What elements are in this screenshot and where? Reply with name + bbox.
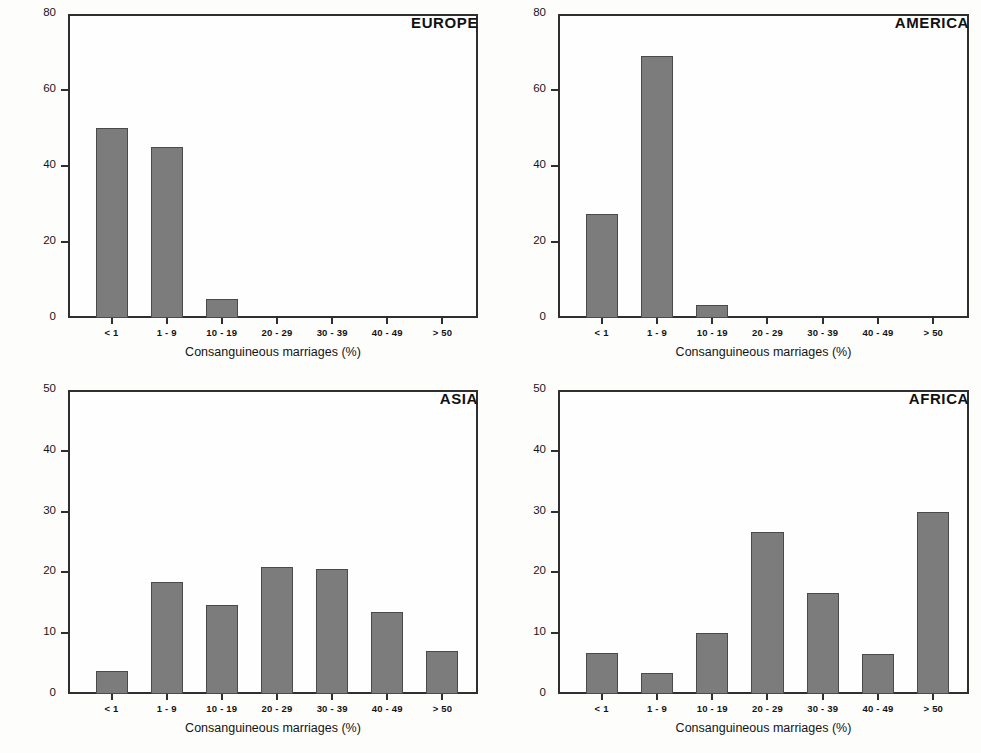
x-tick-label: 10 - 19 bbox=[194, 703, 249, 714]
y-tick-label: 20 bbox=[43, 234, 56, 246]
bar-slot bbox=[685, 390, 740, 694]
x-tick-label: 20 - 29 bbox=[740, 703, 795, 714]
bar-slot bbox=[795, 390, 850, 694]
bar-slot bbox=[139, 390, 194, 694]
x-tick-label: 30 - 39 bbox=[795, 703, 850, 714]
bar-slot bbox=[850, 390, 905, 694]
y-tick-mark bbox=[551, 450, 558, 452]
x-tick-mark bbox=[441, 318, 443, 324]
x-tick: 40 - 49 bbox=[850, 318, 905, 344]
x-tick-label: 10 - 19 bbox=[194, 327, 249, 338]
y-tick-mark bbox=[551, 571, 558, 573]
bar bbox=[206, 299, 238, 318]
bar-slot bbox=[415, 390, 470, 694]
x-tick-label: 10 - 19 bbox=[685, 327, 740, 338]
y-tick-mark bbox=[61, 571, 68, 573]
bar-slot bbox=[360, 14, 415, 318]
x-tick-label: 30 - 39 bbox=[305, 327, 360, 338]
x-tick-mark bbox=[822, 694, 824, 700]
x-tick-mark bbox=[932, 694, 934, 700]
x-tick-label: > 50 bbox=[415, 703, 470, 714]
bars-asia bbox=[68, 390, 478, 694]
x-tick: 1 - 9 bbox=[629, 694, 684, 720]
figure-consanguinity-histograms: Number of populations (%) EUROPE 0204060… bbox=[0, 0, 981, 753]
x-axis-title: Consanguineous marriages (%) bbox=[68, 721, 478, 735]
y-tick-mark bbox=[551, 241, 558, 243]
y-tick-label: 50 bbox=[533, 382, 546, 394]
x-tick-label: < 1 bbox=[84, 327, 139, 338]
x-tick: 30 - 39 bbox=[305, 694, 360, 720]
y-tick-label: 0 bbox=[540, 310, 546, 322]
x-tick-mark bbox=[441, 694, 443, 700]
y-tick-label: 60 bbox=[533, 82, 546, 94]
x-tick: 1 - 9 bbox=[139, 318, 194, 344]
panel-africa: AFRICA 01020304050 < 11 - 910 - 1920 - 2… bbox=[490, 376, 981, 753]
x-tick: 30 - 39 bbox=[795, 694, 850, 720]
y-tick-label: 40 bbox=[533, 443, 546, 455]
bar-slot bbox=[360, 390, 415, 694]
y-tick-label: 0 bbox=[50, 310, 56, 322]
bar-slot bbox=[629, 14, 684, 318]
x-tick-mark bbox=[221, 318, 223, 324]
bar bbox=[206, 605, 238, 694]
y-tick-mark bbox=[551, 89, 558, 91]
bar-slot bbox=[305, 14, 360, 318]
y-tick-label: 20 bbox=[43, 564, 56, 576]
y-tick-mark bbox=[61, 511, 68, 513]
x-tick-label: < 1 bbox=[574, 703, 629, 714]
bar-slot bbox=[629, 390, 684, 694]
bar-slot bbox=[740, 14, 795, 318]
x-tick-label: 20 - 29 bbox=[740, 327, 795, 338]
x-tick-label: < 1 bbox=[84, 703, 139, 714]
x-tick: 40 - 49 bbox=[360, 318, 415, 344]
x-tick: > 50 bbox=[415, 318, 470, 344]
y-tick-label: 60 bbox=[43, 82, 56, 94]
bar-slot bbox=[139, 14, 194, 318]
bar bbox=[751, 532, 783, 694]
bars-america bbox=[558, 14, 969, 318]
bar-slot bbox=[574, 14, 629, 318]
y-axis-title-slot-europe: Number of populations (%) bbox=[0, 0, 30, 320]
x-tick-mark bbox=[331, 318, 333, 324]
y-tick-label: 40 bbox=[43, 443, 56, 455]
x-tick-label: > 50 bbox=[906, 703, 961, 714]
x-tick-mark bbox=[386, 694, 388, 700]
bar bbox=[862, 654, 894, 694]
y-tick-mark bbox=[61, 632, 68, 634]
x-tick-label: 40 - 49 bbox=[360, 327, 415, 338]
bar-slot bbox=[795, 14, 850, 318]
x-tick-label: 20 - 29 bbox=[249, 703, 304, 714]
x-tick-label: 1 - 9 bbox=[139, 703, 194, 714]
y-tick-label: 30 bbox=[533, 504, 546, 516]
x-tick-mark bbox=[111, 694, 113, 700]
x-tick-mark bbox=[166, 694, 168, 700]
bars-europe bbox=[68, 14, 478, 318]
x-tick: 10 - 19 bbox=[194, 694, 249, 720]
x-tick: < 1 bbox=[574, 694, 629, 720]
x-tick: < 1 bbox=[574, 318, 629, 344]
x-tick-mark bbox=[877, 318, 879, 324]
x-tick: > 50 bbox=[415, 694, 470, 720]
y-tick-mark bbox=[61, 165, 68, 167]
y-tick-label: 10 bbox=[533, 625, 546, 637]
x-tick-label: 30 - 39 bbox=[305, 703, 360, 714]
x-tick-label: > 50 bbox=[415, 327, 470, 338]
y-tick-mark bbox=[551, 511, 558, 513]
panel-europe: Number of populations (%) EUROPE 0204060… bbox=[0, 0, 490, 376]
bar-slot bbox=[194, 390, 249, 694]
x-tick-label: 10 - 19 bbox=[685, 703, 740, 714]
y-tick-label: 40 bbox=[533, 158, 546, 170]
x-axis-ticks-asia: < 11 - 910 - 1920 - 2930 - 3940 - 49> 50 bbox=[68, 694, 478, 720]
bar-slot bbox=[84, 14, 139, 318]
bar bbox=[807, 593, 839, 694]
x-axis-title: Consanguineous marriages (%) bbox=[558, 721, 969, 735]
bar bbox=[426, 651, 458, 694]
x-tick: 20 - 29 bbox=[740, 318, 795, 344]
x-axis-ticks-america: < 11 - 910 - 1920 - 2930 - 3940 - 49> 50 bbox=[558, 318, 969, 344]
y-tick-mark bbox=[61, 241, 68, 243]
x-axis-ticks-africa: < 11 - 910 - 1920 - 2930 - 3940 - 49> 50 bbox=[558, 694, 969, 720]
x-tick: 1 - 9 bbox=[139, 694, 194, 720]
x-tick-label: 1 - 9 bbox=[629, 327, 684, 338]
bar-slot bbox=[850, 14, 905, 318]
panel-asia: Number of populations (%) ASIA 010203040… bbox=[0, 376, 490, 753]
